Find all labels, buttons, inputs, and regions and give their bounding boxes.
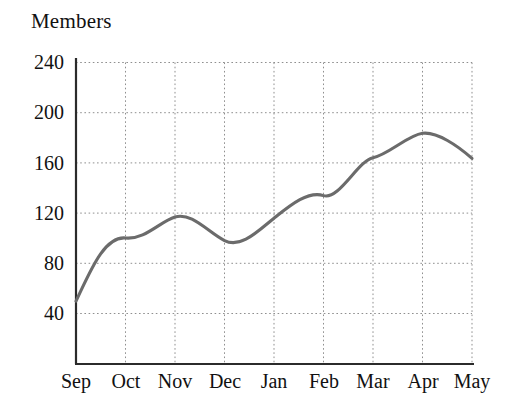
ytick-label-160: 160 (8, 153, 64, 173)
ytick-label-240: 240 (8, 52, 64, 72)
data-series-line (76, 133, 472, 301)
ytick-label-80: 80 (8, 253, 64, 273)
horizontal-gridlines (76, 63, 472, 314)
members-line-chart: Members 240 200 160 120 (0, 0, 506, 418)
xtick-label-may: May (442, 371, 502, 391)
ytick-label-40: 40 (8, 303, 64, 323)
ytick-label-200: 200 (8, 102, 64, 122)
ytick-label-120: 120 (8, 203, 64, 223)
plot-area (0, 0, 506, 418)
